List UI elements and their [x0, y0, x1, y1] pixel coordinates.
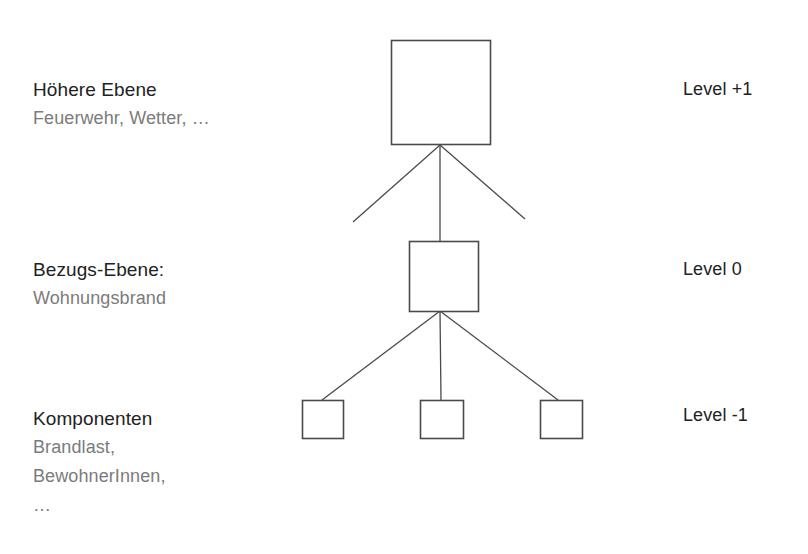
connector-level0-center [440, 311, 441, 400]
row-label-upper: Höhere Ebene Feuerwehr, Wetter, … [33, 76, 210, 133]
node-level-plus1 [392, 41, 491, 145]
node-level-minus1-2 [421, 401, 464, 439]
connector-level0-left [322, 311, 440, 400]
row-subtitle-upper-line-1: Feuerwehr, Wetter, … [33, 104, 210, 133]
connector-level0-right [440, 311, 558, 400]
level-label-minus1: Level -1 [683, 405, 748, 426]
node-level-minus1-1 [303, 401, 344, 439]
row-subtitle-components-line-3: … [33, 491, 166, 520]
row-label-components: Komponenten Brandlast, BewohnerInnen, … [33, 405, 166, 520]
row-subtitle-components-line-1: Brandlast, [33, 433, 166, 462]
level-label-zero: Level 0 [683, 259, 742, 280]
row-label-reference: Bezugs-Ebene: Wohnungsbrand [33, 256, 166, 313]
row-heading-reference: Bezugs-Ebene: [33, 256, 166, 284]
level-label-plus1: Level +1 [683, 79, 752, 100]
row-subtitle-reference-line-1: Wohnungsbrand [33, 284, 166, 313]
node-level-minus1-3 [541, 401, 583, 439]
connector-level1-left [353, 145, 440, 222]
connector-level1-right [440, 145, 525, 219]
row-heading-components: Komponenten [33, 405, 166, 433]
row-subtitle-components-line-2: BewohnerInnen, [33, 462, 166, 491]
row-heading-upper: Höhere Ebene [33, 76, 210, 104]
node-level-zero [410, 242, 479, 312]
hierarchy-diagram: Höhere Ebene Feuerwehr, Wetter, … Bezugs… [0, 0, 808, 554]
